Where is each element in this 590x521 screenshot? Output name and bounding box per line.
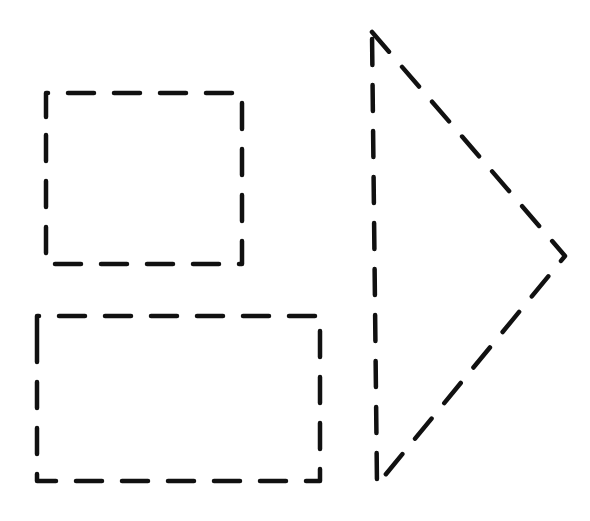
diagram-canvas — [0, 0, 590, 521]
dashed-triangle — [372, 32, 565, 485]
dashed-square — [46, 93, 242, 264]
dashed-rectangle — [37, 316, 320, 481]
